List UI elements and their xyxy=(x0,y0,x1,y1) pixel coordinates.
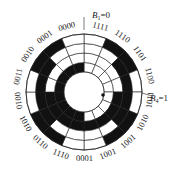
sector-code-label: 1100 xyxy=(143,66,157,85)
b1-axis-label: B1=0 xyxy=(92,10,111,21)
sector-code-label: 0001 xyxy=(76,153,93,163)
sector-code-label: 1110 xyxy=(52,146,71,161)
sector-code-label: 0010 xyxy=(19,44,37,64)
encoder-disc xyxy=(26,34,142,150)
center-hole xyxy=(64,72,104,112)
encoder-disc-diagram: 1111111011011100101110101001100100011110… xyxy=(0,0,180,179)
sector-code-label: 1111 xyxy=(91,19,109,33)
sector-code-label: 0001 xyxy=(35,28,55,46)
sector-code-label: 1101 xyxy=(131,44,149,63)
reading-point-dot xyxy=(101,93,105,97)
sector-code-label: 0000 xyxy=(57,19,76,33)
sector-code-label: 0011 xyxy=(11,67,25,86)
sector-code-label: 1110 xyxy=(113,27,132,45)
sector-code-label: 1001 xyxy=(98,146,117,161)
sector-code-label: 0010 xyxy=(13,92,25,110)
b4-axis-label: B4=1 xyxy=(150,93,168,104)
